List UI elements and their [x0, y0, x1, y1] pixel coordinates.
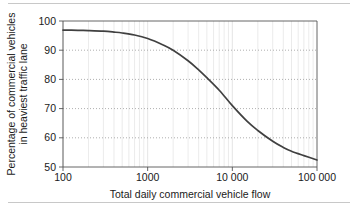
y-tick-label: 80 — [44, 73, 56, 85]
x-axis-tick-marks — [63, 167, 317, 171]
y-axis-title-line-1: Percentage of commercial vehicles — [5, 13, 17, 176]
y-axis-title: Percentage of commercial vehicles in hea… — [5, 13, 29, 176]
x-axis-tick-labels: 100100010 000100 000 — [54, 171, 336, 183]
y-tick-label: 70 — [44, 102, 56, 114]
x-axis-title: Total daily commercial vehicle flow — [110, 188, 271, 200]
y-axis-tick-labels: 1009080706050 — [38, 15, 56, 173]
chart-plot-svg: 1009080706050 100100010 000100 000 Total… — [0, 0, 358, 210]
y-tick-label: 100 — [38, 15, 56, 27]
y-axis-tick-marks — [59, 21, 63, 167]
data-series-line — [63, 30, 317, 160]
vertical-log-minor-gridlines — [63, 21, 313, 167]
x-tick-label: 1000 — [136, 171, 160, 183]
x-tick-label: 100 — [54, 171, 72, 183]
x-tick-label: 100 000 — [298, 171, 336, 183]
x-tick-label: 10 000 — [216, 171, 248, 183]
y-tick-label: 90 — [44, 44, 56, 56]
y-tick-label: 60 — [44, 131, 56, 143]
chart-figure: 1009080706050 100100010 000100 000 Total… — [0, 0, 358, 210]
y-axis-title-line-2: in heaviest traffic lane — [17, 43, 29, 145]
